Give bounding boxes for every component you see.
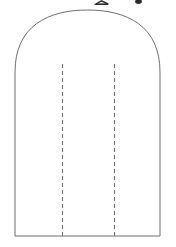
arch-outline-shape bbox=[15, 10, 160, 236]
clipped-caret-bar-icon bbox=[96, 3, 108, 5]
figure-canvas bbox=[0, 0, 176, 247]
arch-pattern-diagram bbox=[0, 0, 176, 247]
